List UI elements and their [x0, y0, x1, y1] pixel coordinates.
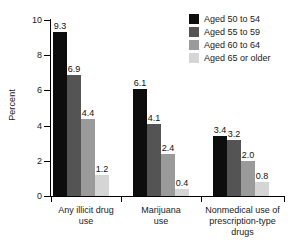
- bar-value-label: 2.4: [162, 143, 175, 153]
- legend-swatch-icon: [189, 53, 199, 63]
- x-tick-mark: [51, 196, 52, 202]
- bar[interactable]: 4.4: [81, 119, 95, 196]
- y-tick-label: 6: [22, 86, 42, 95]
- bar-value-label: 3.4: [214, 125, 227, 135]
- y-tick-label: 10: [22, 16, 42, 25]
- bar[interactable]: 2.0: [241, 161, 255, 196]
- legend-item[interactable]: Aged 60 to 64: [189, 39, 301, 51]
- x-tick-mark: [121, 196, 122, 202]
- category-label-line: drugs: [195, 227, 290, 238]
- legend-swatch-icon: [189, 40, 199, 50]
- y-tick-label: 4: [22, 122, 42, 131]
- y-tick-label: 8: [22, 51, 42, 60]
- legend-swatch-icon: [189, 14, 199, 24]
- x-tick-mark: [201, 196, 202, 202]
- bar-value-label: 0.4: [176, 178, 189, 188]
- bar[interactable]: 2.4: [161, 154, 175, 196]
- y-tick-mark: [44, 20, 51, 21]
- legend-label: Aged 60 to 64: [204, 40, 260, 50]
- category-label-line: prescription-type: [195, 216, 290, 227]
- x-tick-mark: [284, 196, 285, 202]
- bar[interactable]: 6.1: [133, 89, 147, 196]
- bar-chart: Percent 1086420 9.36.94.41.26.14.12.40.4…: [0, 0, 303, 252]
- legend-item[interactable]: Aged 55 to 59: [189, 26, 301, 38]
- legend-item[interactable]: Aged 50 to 54: [189, 13, 301, 25]
- bar-group: 6.14.12.40.4: [133, 20, 189, 196]
- bar[interactable]: 3.4: [213, 136, 227, 196]
- bar[interactable]: 9.3: [53, 32, 67, 196]
- bar-value-label: 3.2: [228, 129, 241, 139]
- legend-item[interactable]: Aged 65 or older: [189, 52, 301, 64]
- y-tick-mark: [44, 161, 51, 162]
- bar-value-label: 1.2: [96, 164, 109, 174]
- bar[interactable]: 3.2: [227, 140, 241, 196]
- bar[interactable]: 6.9: [67, 75, 81, 196]
- bar[interactable]: 0.4: [175, 189, 189, 196]
- bar-value-label: 2.0: [242, 150, 255, 160]
- bar-value-label: 9.3: [54, 21, 67, 31]
- bar-value-label: 4.4: [82, 108, 95, 118]
- bar-value-label: 6.1: [134, 78, 147, 88]
- y-tick-mark: [44, 55, 51, 56]
- y-tick-mark: [44, 90, 51, 91]
- legend-label: Aged 50 to 54: [204, 14, 260, 24]
- category-label-line: use: [115, 216, 207, 227]
- bar[interactable]: 4.1: [147, 124, 161, 196]
- y-axis-title: Percent: [7, 70, 17, 140]
- bar[interactable]: 1.2: [95, 175, 109, 196]
- bar-value-label: 0.8: [256, 171, 269, 181]
- legend-label: Aged 65 or older: [204, 53, 271, 63]
- bar-value-label: 4.1: [148, 113, 161, 123]
- y-tick-mark: [44, 196, 51, 197]
- y-tick-label: 0: [22, 192, 42, 201]
- category-label: Marijuanause: [115, 205, 207, 227]
- category-label: Nonmedical use ofprescription-typedrugs: [195, 205, 290, 238]
- bar-value-label: 6.9: [68, 64, 81, 74]
- y-tick-mark: [44, 126, 51, 127]
- y-tick-label: 2: [22, 157, 42, 166]
- legend-swatch-icon: [189, 27, 199, 37]
- legend-label: Aged 55 to 59: [204, 27, 260, 37]
- legend: Aged 50 to 54Aged 55 to 59Aged 60 to 64A…: [189, 13, 301, 65]
- bar-group: 9.36.94.41.2: [53, 20, 109, 196]
- x-axis-line: [50, 196, 285, 197]
- category-label-line: Marijuana: [115, 205, 207, 216]
- bar[interactable]: 0.8: [255, 182, 269, 196]
- category-label-line: Nonmedical use of: [195, 205, 290, 216]
